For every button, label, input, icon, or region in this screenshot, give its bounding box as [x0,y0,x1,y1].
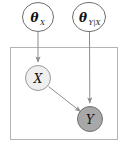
node-theta-x[interactable]: θ X [23,3,54,32]
node-theta-y-given-x-subscript: Y|X [89,19,102,27]
node-theta-x-subscript: X [39,19,46,27]
node-y-label: Y [86,113,95,127]
node-x[interactable]: X [26,66,51,91]
diagram-svg: θ X θ Y|X X Y [0,0,127,148]
node-theta-x-symbol: θ [30,11,38,25]
node-y[interactable]: Y [78,107,103,132]
node-x-label: X [33,72,43,86]
node-theta-y-given-x-symbol: θ [79,11,87,25]
node-theta-y-given-x-shape [73,3,106,32]
graphical-model-diagram: θ X θ Y|X X Y [0,0,127,148]
node-theta-y-given-x[interactable]: θ Y|X [73,3,106,32]
plate-rectangle [11,48,118,140]
